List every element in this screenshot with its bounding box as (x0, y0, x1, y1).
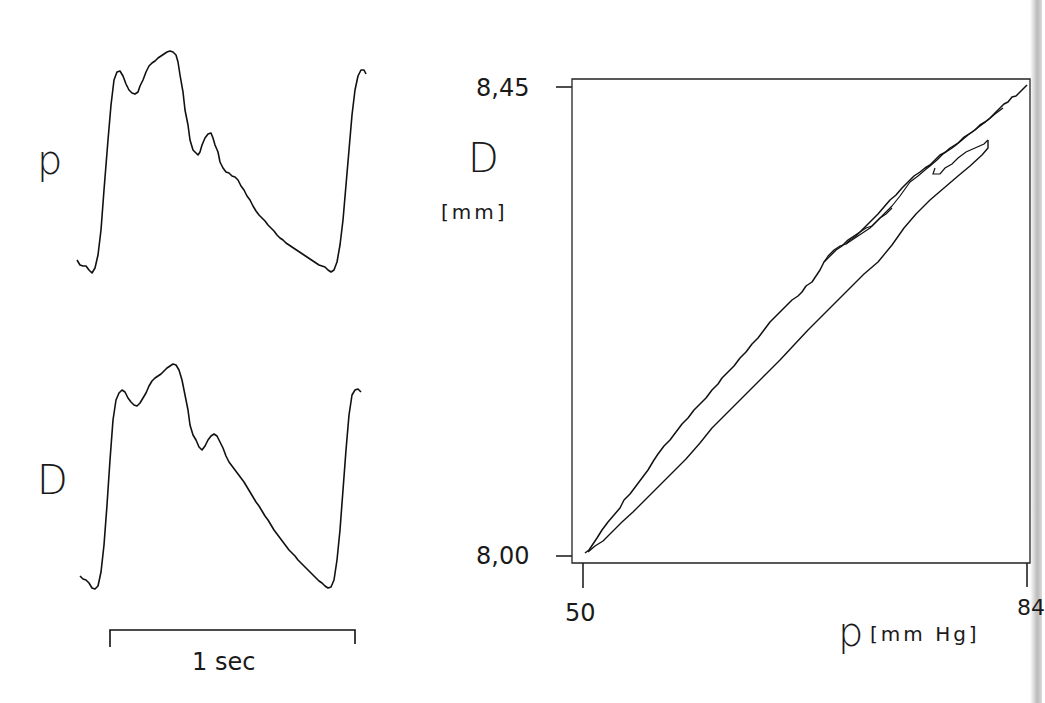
y-tick-label-top: 8,45 (476, 76, 529, 100)
loop-inner-strand (824, 108, 1003, 262)
time-scale-bar (110, 630, 355, 647)
plot-frame (572, 79, 1030, 563)
x-tick-label-right: 84 (1017, 597, 1045, 619)
y-axis-unit: [mm] (441, 202, 508, 222)
trace-bottom-label: D (37, 460, 68, 500)
y-tick-label-bottom: 8,00 (476, 544, 529, 568)
loop-lower-branch (588, 140, 988, 552)
loop-upper-branch (585, 85, 1027, 553)
x-axis-unit: [mm Hg] (870, 624, 980, 644)
x-axis-label: p (838, 612, 863, 652)
trace-top-label: p (37, 140, 62, 180)
pressure-waveform (77, 51, 366, 273)
diameter-waveform (80, 364, 361, 589)
y-axis-label: D (468, 138, 499, 178)
scale-bar-label: 1 sec (192, 650, 255, 674)
x-tick-label-left: 50 (565, 601, 596, 625)
